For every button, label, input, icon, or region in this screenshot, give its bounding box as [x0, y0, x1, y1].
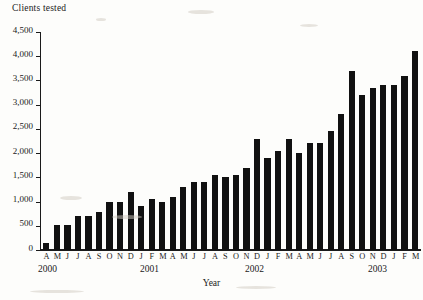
bar-series — [41, 32, 420, 250]
plot-area: 4,5004,0003,5003,0002,5002,0001,5001,000… — [40, 32, 421, 250]
x-axis-year-labels: 2000200120022003 — [0, 263, 423, 277]
x-axis-month-label: M — [159, 251, 165, 263]
bar — [296, 153, 302, 250]
bar — [328, 131, 334, 250]
scan-speckle — [300, 24, 318, 27]
bar — [359, 95, 365, 250]
bar — [349, 71, 355, 250]
x-axis-month-label: O — [106, 251, 112, 263]
bar — [128, 192, 134, 250]
y-axis-tick-label: 2,000 — [13, 147, 33, 156]
x-axis-month-label: N — [370, 251, 376, 263]
y-axis-tick: 3,500 — [36, 80, 40, 81]
y-axis-tick: 3,000 — [36, 105, 40, 106]
scan-speckle — [60, 196, 82, 200]
bar — [43, 243, 49, 250]
x-axis-month-label: J — [138, 251, 144, 263]
y-axis-tick: 2,000 — [36, 153, 40, 154]
y-axis-tick: 1,000 — [36, 202, 40, 203]
x-axis-month-label: A — [338, 251, 344, 263]
y-axis-tick-label: 2,500 — [13, 122, 33, 131]
x-axis-month-label: M — [286, 251, 292, 263]
bar — [391, 85, 397, 250]
y-axis-tick-label: 3,000 — [13, 98, 33, 107]
bar — [170, 197, 176, 250]
bar — [191, 182, 197, 250]
bar — [275, 151, 281, 250]
bar — [201, 182, 207, 250]
x-axis-year-label: 2002 — [245, 263, 264, 275]
bar — [264, 158, 270, 250]
y-axis-title: Clients tested — [12, 3, 66, 13]
scan-speckle — [188, 10, 214, 14]
y-axis-tick: 4,000 — [36, 56, 40, 57]
y-axis-tick: 0 — [36, 250, 40, 251]
x-axis-month-label: J — [328, 251, 334, 263]
bar — [243, 168, 249, 250]
x-axis-month-label: S — [222, 251, 228, 263]
x-axis-month-label: D — [380, 251, 386, 263]
x-axis-month-label: A — [43, 251, 49, 263]
y-axis-tick: 4,500 — [36, 32, 40, 33]
bar — [180, 187, 186, 250]
x-axis-year-label: 2003 — [368, 263, 387, 275]
bar — [412, 51, 418, 250]
x-axis-month-label: A — [170, 251, 176, 263]
x-axis-month-label: J — [191, 251, 197, 263]
x-axis-year-label: 2001 — [140, 263, 159, 275]
y-axis-tick-label: 4,000 — [13, 50, 33, 59]
bar — [212, 175, 218, 250]
bar — [286, 139, 292, 250]
bar — [75, 216, 81, 250]
x-axis-month-label: S — [96, 251, 102, 263]
x-axis-month-label: J — [317, 251, 323, 263]
x-axis-month-labels: AMJJASONDJFMAMJJASONDJFMAMJJASONDJFM — [41, 251, 420, 263]
bar — [64, 225, 70, 250]
x-axis-month-label: O — [233, 251, 239, 263]
y-axis-tick-label: 4,500 — [13, 26, 33, 35]
x-axis-month-label: O — [359, 251, 365, 263]
x-axis-month-label: F — [401, 251, 407, 263]
y-axis-tick: 1,500 — [36, 177, 40, 178]
bar — [370, 88, 376, 250]
x-axis-month-label: M — [180, 251, 186, 263]
x-axis-month-label: F — [275, 251, 281, 263]
y-axis-tick-label: 500 — [20, 219, 34, 228]
x-axis-month-label: D — [128, 251, 134, 263]
x-axis-month-label: J — [264, 251, 270, 263]
scan-speckle — [96, 18, 106, 21]
x-axis-month-label: J — [201, 251, 207, 263]
x-axis-month-label: J — [64, 251, 70, 263]
x-axis-month-label: A — [296, 251, 302, 263]
y-axis-tick-label: 0 — [29, 244, 34, 253]
bar — [138, 206, 144, 250]
x-axis-year-label: 2000 — [38, 263, 57, 275]
bar — [233, 175, 239, 250]
bar — [106, 202, 112, 250]
x-axis-month-label: A — [85, 251, 91, 263]
bar — [222, 177, 228, 250]
x-axis-month-label: N — [243, 251, 249, 263]
bar — [307, 143, 313, 250]
bar — [254, 139, 260, 250]
x-axis-month-label: S — [349, 251, 355, 263]
y-axis-tick-label: 1,000 — [13, 195, 33, 204]
bar — [338, 114, 344, 250]
scan-speckle — [30, 290, 84, 293]
bar — [54, 225, 60, 250]
bar — [117, 202, 123, 250]
bar — [149, 199, 155, 250]
bar — [317, 143, 323, 250]
y-axis-tick-label: 1,500 — [13, 171, 33, 180]
bar — [96, 212, 102, 250]
bar — [85, 216, 91, 250]
y-axis-tick: 500 — [36, 226, 40, 227]
x-axis-month-label: M — [412, 251, 418, 263]
x-axis-month-label: A — [212, 251, 218, 263]
x-axis-month-label: M — [54, 251, 60, 263]
x-axis-month-label: N — [117, 251, 123, 263]
bar — [159, 202, 165, 250]
scan-speckle — [112, 215, 142, 219]
x-axis-month-label: J — [391, 251, 397, 263]
x-axis-month-label: F — [149, 251, 155, 263]
